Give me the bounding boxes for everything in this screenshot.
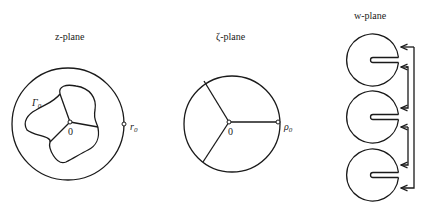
zeta-spoke-lower — [203, 122, 229, 162]
w-gluing-arrow-2-3 — [401, 127, 408, 165]
zeta-plane-title: ζ-plane — [216, 31, 246, 43]
zeta-spoke-upper — [204, 81, 229, 122]
zeta-plane-panel: ζ-plane 0 ρ0 — [184, 31, 293, 172]
w-plane-title: w-plane — [354, 10, 387, 21]
zeta-origin-point — [227, 120, 231, 124]
z-origin-label: 0 — [68, 126, 73, 137]
w-sheet-1 — [347, 34, 399, 86]
z-plane-title: z-plane — [55, 31, 85, 42]
w-sheet-3-slit — [371, 173, 399, 178]
zeta-disk-boundary — [184, 76, 280, 172]
w-plane-panel: w-plane — [347, 10, 414, 201]
zeta-origin-label: 0 — [228, 126, 233, 137]
z-branch-cut-lower — [50, 122, 70, 142]
conformal-map-figure: z-plane 0 Γ0 r0 ζ-plane 0 ρ0 w-plane — [0, 0, 427, 210]
w-sheet-2 — [347, 91, 399, 143]
w-sheet-1-slit — [371, 58, 399, 63]
z-plane-panel: z-plane 0 Γ0 r0 — [12, 31, 138, 180]
zeta-rho0-point — [276, 120, 280, 124]
w-sheet-2-slit — [371, 115, 399, 120]
w-sheet-3-circle — [347, 149, 399, 201]
w-sheet-2-circle — [347, 91, 399, 143]
z-origin-point — [68, 120, 72, 124]
w-sheet-1-circle — [347, 34, 399, 86]
w-sheet-3 — [347, 149, 399, 201]
gamma0-label: Γ0 — [31, 97, 42, 110]
z-branch-cut-upper — [60, 94, 70, 122]
z-branch-cut-right — [70, 122, 98, 127]
w-gluing-arrow-1-2 — [401, 67, 408, 108]
z-r0-point — [122, 122, 126, 126]
r0-label: r0 — [130, 121, 138, 134]
rho0-label: ρ0 — [283, 121, 293, 134]
